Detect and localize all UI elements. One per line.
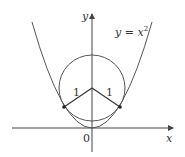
radius-label-left: 1 — [73, 86, 80, 99]
diagram-canvas: 1 1 0 x y y = x2 — [0, 0, 185, 157]
origin-label: 0 — [83, 132, 90, 145]
curve-label-base: y = x — [114, 26, 144, 39]
tangent-point-left — [62, 105, 66, 109]
y-axis-label: y — [81, 10, 89, 23]
tangent-point-right — [118, 105, 122, 109]
radius-label-right: 1 — [106, 86, 113, 99]
curve-label-exponent: 2 — [144, 25, 148, 33]
curve-label: y = x2 — [114, 25, 148, 39]
x-axis-label: x — [166, 132, 173, 145]
